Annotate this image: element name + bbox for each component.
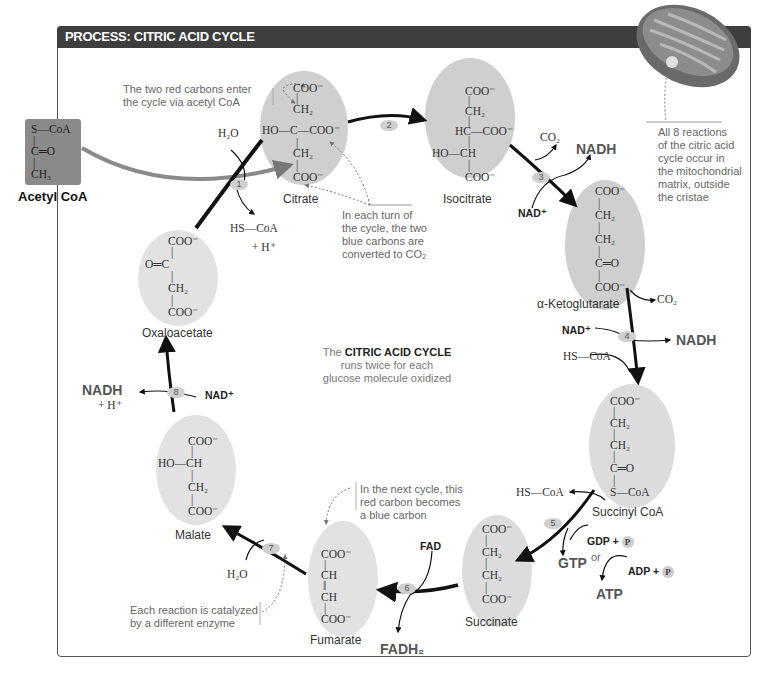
akg-line-8: |	[598, 270, 600, 282]
step4-co2: CO₂	[657, 293, 677, 305]
step4-nadh: NADH	[676, 332, 716, 348]
step-badge-7: 7	[262, 543, 280, 554]
oaa-line-6: |	[171, 295, 173, 307]
akg-line-2: |	[598, 198, 600, 210]
succinate-line-7: COO⁻	[482, 594, 512, 606]
note-line: the cycle via acetyl CoA	[123, 96, 251, 109]
note-line: by a different enzyme	[130, 617, 258, 630]
step1-h-plus: + H⁺	[252, 240, 276, 254]
akg-line-6: |	[598, 246, 600, 258]
note-line: The two red carbons enter	[123, 83, 251, 96]
step1-hscoa: HS—CoA	[230, 222, 278, 234]
note-line: red carbon becomes	[360, 496, 463, 509]
oaa-line-3: O═C	[145, 259, 169, 271]
center-caption: The CITRIC ACID CYCLE runs twice for eac…	[312, 346, 462, 385]
step3-nad: NAD⁺	[518, 207, 547, 219]
malate-line-6: |	[191, 494, 193, 506]
note-line: matrix, outside	[658, 178, 742, 191]
step6-fadh2: FADH₂	[380, 641, 424, 657]
citrate-line-8: COO⁻	[293, 172, 323, 184]
note-line: the mitochondrial	[658, 165, 742, 178]
succinyl-coa-label: Succinyl CoA	[592, 505, 663, 519]
step5-adp: ADP + P	[628, 565, 674, 578]
isocitrate-line-8: |	[468, 160, 470, 172]
center-line-2: runs twice for each	[312, 359, 462, 372]
succinate-line-2: |	[485, 535, 487, 547]
note-line: converted to CO₂	[342, 248, 427, 261]
adp-text: ADP +	[628, 565, 659, 577]
step8-nadh: NADH	[82, 382, 122, 398]
acetyl-coa-label: Acetyl CoA	[18, 189, 87, 204]
step6-fad: FAD	[420, 540, 441, 552]
center-line-3: glucose molecule oxidized	[312, 372, 462, 385]
oxaloacetate-label: Oxaloacetate	[142, 326, 213, 340]
oaa-line-7: COO⁻	[168, 307, 198, 319]
note-line: All 8 reactions	[658, 126, 742, 139]
citrate-line-4: HO—C—COO⁻	[262, 125, 340, 137]
akg-line-4: |	[598, 222, 600, 234]
center-line-1: The CITRIC ACID CYCLE	[312, 346, 462, 359]
note-line: the cycle, the two	[342, 222, 427, 235]
step-badge-4: 4	[618, 331, 636, 342]
step-badge-5: 5	[544, 518, 562, 529]
akg-line-7: C═O	[595, 258, 619, 270]
step7-h2o: H₂O	[227, 568, 248, 580]
malate-line-2: |	[191, 446, 193, 458]
step4-hscoa: HS—CoA	[563, 350, 611, 362]
acetyl-coa-line-3: C═O	[31, 146, 55, 158]
note-red-carbons: The two red carbons enter the cycle via …	[123, 83, 251, 109]
alpha-ketoglutarate-label: α-Ketoglutarate	[537, 297, 619, 311]
step5-hscoa: HS—CoA	[516, 486, 564, 498]
step-badge-8: 8	[167, 387, 185, 398]
step1-h2o: H₂O	[218, 127, 239, 139]
oaa-line-2: |	[171, 247, 173, 259]
akg-line-1: COO⁻	[595, 186, 625, 198]
note-line: of the citric acid	[658, 139, 742, 152]
note-line: a blue carbon	[360, 509, 463, 522]
phosphate-icon: P	[622, 536, 634, 548]
note-line: In each turn of	[342, 209, 427, 222]
isocitrate-line-6: |	[468, 136, 470, 148]
acetyl-coa-line-5: CH₃	[31, 169, 51, 181]
note-enzyme: Each reaction is catalyzed by a differen…	[130, 604, 258, 630]
malate-line-5: CH₂	[188, 482, 208, 494]
step-badge-1: 1	[230, 179, 248, 190]
succinate-line-6: |	[485, 582, 487, 594]
step5-atp: ATP	[596, 586, 623, 602]
step4-nad: NAD⁺	[562, 324, 591, 336]
succinyl-line-9: S—CoA	[610, 487, 650, 499]
note-line: Each reaction is catalyzed	[130, 604, 258, 617]
acetyl-coa-line-1: S—CoA	[31, 124, 71, 136]
malate-line-4: |	[191, 470, 193, 482]
akg-line-5: CH₂	[595, 234, 615, 246]
oaa-line-5: CH₂	[168, 283, 188, 295]
citrate-line-6: CH₂	[293, 148, 313, 160]
oaa-line-4: |	[171, 271, 173, 283]
malate-label: Malate	[175, 528, 211, 542]
succinate-line-4: |	[485, 558, 487, 570]
step8-nad: NAD⁺	[205, 389, 234, 401]
step3-nadh: NADH	[576, 141, 616, 157]
acetyl-coa-box: S—CoA | C═O | CH₃	[25, 119, 81, 185]
isocitrate-label: Isocitrate	[443, 192, 492, 206]
note-blue-carbons: In each turn of the cycle, the two blue …	[342, 209, 427, 261]
step-badge-3: 3	[532, 172, 550, 183]
center-bold: CITRIC ACID CYCLE	[345, 346, 452, 358]
step8-h-plus: + H⁺	[98, 398, 122, 412]
fumarate-label: Fumarate	[310, 633, 361, 647]
succinyl-line-6: |	[613, 451, 615, 463]
malate-line-3: HO—CH	[158, 458, 202, 470]
succinate-label: Succinate	[465, 615, 518, 629]
step5-gtp: GTP	[558, 555, 587, 571]
step-badge-2: 2	[380, 120, 398, 131]
gdp-text: GDP +	[587, 535, 619, 547]
fumarate-line-7: COO⁻	[321, 614, 351, 626]
note-line: blue carbons are	[342, 235, 427, 248]
isocitrate-line-7: HO—CH	[432, 148, 476, 160]
succinyl-line-7: C═O	[610, 463, 634, 475]
isocitrate-line-5: HC—COO⁻	[455, 126, 513, 138]
akg-line-9: COO⁻	[595, 282, 625, 294]
note-mitochondria: All 8 reactions of the citric acid cycle…	[658, 126, 742, 204]
step3-co2: CO₂	[540, 131, 560, 143]
akg-line-3: CH₂	[595, 210, 615, 222]
